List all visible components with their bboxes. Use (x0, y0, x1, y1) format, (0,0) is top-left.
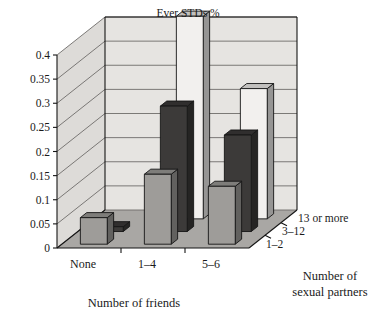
bar-top (80, 213, 113, 218)
z-axis-title-line1: Number of (303, 269, 358, 283)
std-3d-bar-chart: 00.050.10.150.20.250.30.350.4 None1–45–6… (0, 0, 376, 312)
z-axis-title: Number of sexual partners (292, 269, 367, 299)
y-tick-label: 0.3 (36, 97, 51, 109)
bar-side (187, 101, 193, 232)
bar (80, 213, 113, 245)
y-tick-label: 0.15 (30, 170, 50, 182)
y-tick-label: 0 (44, 242, 50, 254)
bar (144, 169, 177, 244)
x-category-label: 5–6 (202, 257, 220, 271)
bar-top (160, 101, 193, 106)
y-axis-tick-labels: 00.050.10.150.20.250.30.350.4 (30, 49, 50, 254)
x-axis-ticks (121, 248, 185, 253)
z-category-label: 13 or more (298, 212, 348, 224)
z-axis-title-line2: sexual partners (292, 285, 367, 299)
bar-front (144, 174, 171, 244)
bar-side (251, 130, 257, 232)
bar-front (208, 186, 235, 244)
x-axis-category-labels: None1–45–6 (70, 257, 220, 271)
z-category-label: 1–2 (266, 238, 284, 250)
chart-container: 00.050.10.150.20.250.30.350.4 None1–45–6… (0, 0, 376, 312)
z-category-label: 3–12 (282, 225, 305, 237)
x-axis-title: Number of friends (88, 296, 180, 310)
bar-side (171, 169, 177, 244)
y-tick-label: 0.25 (30, 121, 50, 133)
bar (208, 181, 241, 244)
bar-side (267, 84, 273, 219)
y-tick-label: 0.35 (30, 73, 50, 85)
bar-top (240, 84, 273, 89)
y-tick-label: 0.1 (36, 194, 51, 206)
bar-top (144, 169, 177, 174)
y-axis-ticks (53, 55, 57, 248)
bar-top (224, 130, 257, 135)
y-tick-label: 0.4 (36, 49, 51, 61)
x-category-label: None (70, 257, 96, 271)
chart-title: Ever STDs % (156, 7, 220, 19)
y-tick-label: 0.05 (30, 218, 50, 230)
bar-top (208, 181, 241, 186)
bar-front (80, 218, 107, 245)
x-category-label: 1–4 (138, 257, 156, 271)
y-tick-label: 0.2 (36, 146, 51, 158)
bar-side (235, 181, 241, 244)
